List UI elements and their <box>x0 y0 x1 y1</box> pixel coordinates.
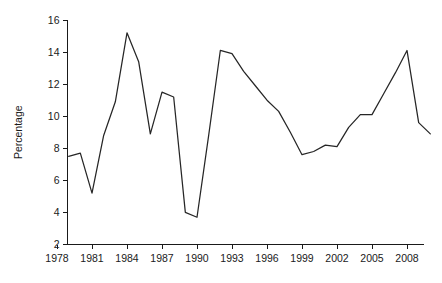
x-tick-label: 1990 <box>185 252 209 264</box>
y-tick-label: 6 <box>54 174 60 186</box>
line-chart: 246810121416 Percentage 1978198119841987… <box>0 0 442 283</box>
data-series-line <box>69 33 431 217</box>
x-tick-label: 2008 <box>395 252 419 264</box>
y-axis: 246810121416 Percentage <box>12 14 68 251</box>
x-tick-label: 2005 <box>360 252 384 264</box>
data-series-group <box>69 33 431 217</box>
x-tick-label: 1999 <box>290 252 314 264</box>
x-tick-label: 1978 <box>45 252 69 264</box>
y-tick-label: 4 <box>54 206 60 218</box>
y-tick-label: 10 <box>48 110 60 122</box>
y-axis-title: Percentage <box>12 105 24 159</box>
y-tick-label: 8 <box>54 142 60 154</box>
x-tick-label: 1984 <box>115 252 139 264</box>
y-tick-label: 12 <box>48 78 60 90</box>
x-tick-label: 1996 <box>255 252 279 264</box>
chart-canvas: 246810121416 Percentage 1978198119841987… <box>0 0 442 283</box>
y-tick-label: 14 <box>48 46 60 58</box>
x-tick-label: 1981 <box>80 252 104 264</box>
y-axis-ticks: 246810121416 <box>48 14 68 251</box>
x-axis: 1978198119841987199019931996199920022005… <box>45 245 424 264</box>
x-tick-label: 1987 <box>150 252 174 264</box>
x-tick-label: 2002 <box>325 252 349 264</box>
x-tick-label: 1993 <box>220 252 244 264</box>
x-axis-ticks: 1978198119841987199019931996199920022005… <box>45 245 419 264</box>
y-tick-label: 16 <box>48 14 60 26</box>
